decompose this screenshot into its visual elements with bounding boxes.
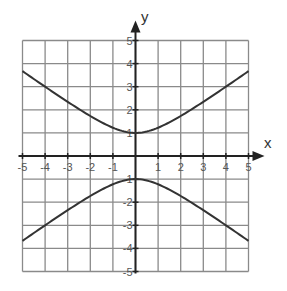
y-tick-label: 2 [126,104,132,116]
y-axis-label: y [141,8,149,25]
y-tick-label: -4 [123,242,133,254]
coordinate-plane: -5-4-3-2-11234554321-1-2-3-4-5 x y [0,0,287,291]
y-tick-label: 4 [126,58,132,70]
x-axis-arrow-icon [253,151,265,161]
x-axis-label: x [264,134,272,151]
x-tick-label: -1 [108,161,118,173]
x-tick-label: 1 [155,161,161,173]
x-tick-label: 5 [245,161,251,173]
y-tick-label: -3 [123,219,133,231]
x-tick-label: -5 [18,161,28,173]
x-tick-label: -4 [40,161,50,173]
axes [19,21,265,274]
x-tick-label: 2 [178,161,184,173]
x-tick-label: 3 [200,161,206,173]
y-tick-label: 5 [126,35,132,47]
x-tick-label: -3 [63,161,73,173]
y-tick-label: -2 [123,196,133,208]
x-tick-label: 4 [223,161,229,173]
y-tick-label: 3 [126,81,132,93]
y-tick-label: -5 [123,266,133,278]
y-axis-arrow-icon [131,21,141,33]
x-tick-label: -2 [85,161,95,173]
